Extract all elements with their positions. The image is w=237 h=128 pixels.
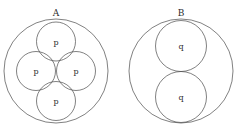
circle-packing-diagram: A p p p p B q q (0, 0, 237, 128)
group-a-inner-label-right: p (73, 67, 78, 76)
figure-root: A p p p p B q q (0, 0, 237, 128)
group-a: A p p p p (4, 8, 108, 124)
group-a-inner-label-top: p (53, 38, 58, 47)
group-a-inner-label-bottom: p (53, 97, 58, 106)
group-a-label: A (52, 8, 60, 18)
group-b-outer-circle (129, 19, 233, 123)
group-b-label: B (178, 8, 185, 18)
group-b-inner-label-top: q (178, 42, 183, 51)
group-a-outer-circle (4, 19, 108, 123)
group-b: B q q (129, 8, 233, 124)
group-a-inner-label-left: p (33, 67, 38, 76)
group-b-inner-label-bottom: q (178, 93, 183, 102)
